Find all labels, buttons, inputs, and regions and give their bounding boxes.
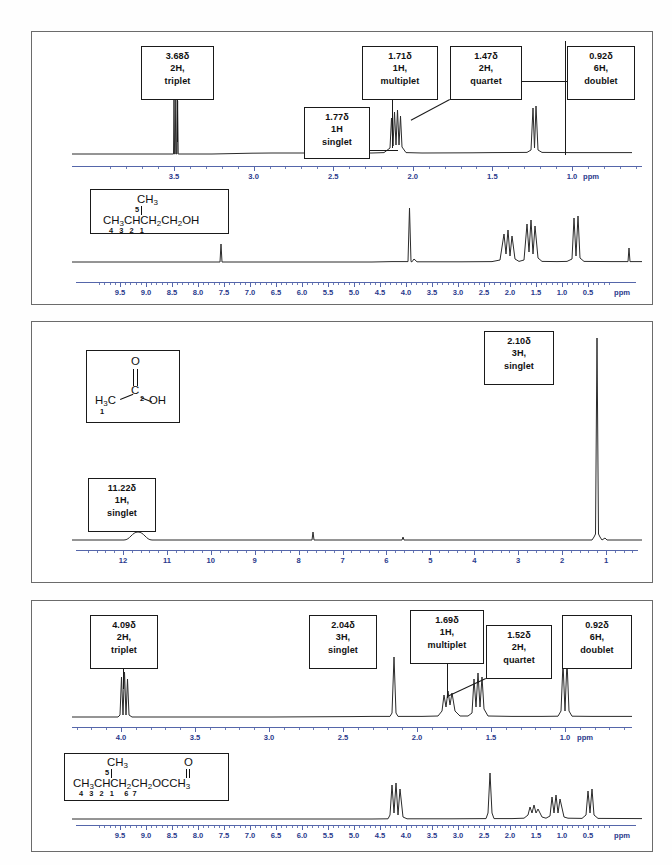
axis-minor-tick <box>597 550 598 553</box>
axis-minor-tick <box>541 282 542 285</box>
axis-tick-label: 3.5 <box>427 831 438 840</box>
axis-minor-tick <box>442 282 443 285</box>
axis-minor-tick <box>437 282 438 285</box>
axis-minor-tick <box>598 825 599 828</box>
axis-ppm-label: ppm <box>583 172 599 181</box>
leader-0.92-vertical <box>565 41 566 155</box>
axis-minor-tick <box>624 727 625 730</box>
axis-minor-tick <box>228 550 229 553</box>
axis-tick <box>224 282 225 287</box>
axis-minor-tick <box>474 825 475 828</box>
expanded-axis-panel1: 3.53.02.52.01.51.0 ppm <box>72 166 642 184</box>
axis-minor-tick <box>397 166 398 169</box>
callout-multiplicity: quartet <box>487 654 551 666</box>
axis-minor-tick <box>360 550 361 553</box>
axis-minor-tick <box>593 282 594 285</box>
axis-minor-tick <box>141 550 142 553</box>
axis-minor-tick <box>158 166 159 169</box>
axis-tick-label: 1 <box>604 556 608 565</box>
axis-minor-tick <box>552 825 553 828</box>
axis-tick-label: 0.5 <box>583 831 594 840</box>
axis-tick-label: 7.5 <box>219 831 230 840</box>
axis-minor-tick <box>180 727 181 730</box>
axis-tick-label: 6.0 <box>297 831 308 840</box>
axis-minor-tick <box>203 825 204 828</box>
axis-tick-label: 6.5 <box>271 288 282 297</box>
callout-multiplicity: multiplet <box>411 639 483 651</box>
axis-tick-label: 0.5 <box>583 288 594 297</box>
axis-minor-tick <box>432 727 433 730</box>
full-axis-panel1: 9.59.08.58.07.57.06.56.05.55.04.54.03.53… <box>76 282 636 300</box>
axis-minor-tick <box>457 550 458 553</box>
axis-minor-tick <box>359 282 360 285</box>
axis-minor-tick <box>286 825 287 828</box>
axis-minor-tick <box>193 825 194 828</box>
axis-minor-tick <box>271 825 272 828</box>
axis-tick-label: 2 <box>560 556 564 565</box>
axis-minor-tick <box>225 727 226 730</box>
axis-minor-tick <box>402 727 403 730</box>
axis-minor-tick <box>536 550 537 553</box>
axis-minor-tick <box>479 282 480 285</box>
callout-protons: 1H, <box>411 626 483 638</box>
callout-11.22: 11.22δ 1H, singlet <box>88 478 156 532</box>
axis-minor-tick <box>506 727 507 730</box>
axis-minor-tick <box>553 550 554 553</box>
axis-minor-tick <box>489 282 490 285</box>
axis-minor-tick <box>344 825 345 828</box>
axis-tick <box>406 282 407 287</box>
axis-minor-tick <box>615 550 616 553</box>
axis-minor-tick <box>520 825 521 828</box>
axis-minor-tick <box>219 825 220 828</box>
axis-tick-label: 1.0 <box>567 172 578 181</box>
axis-minor-tick <box>312 282 313 285</box>
axis-tick-label: 2.5 <box>479 288 490 297</box>
axis-minor-tick <box>177 825 178 828</box>
axis-tick-label: 4.0 <box>401 831 412 840</box>
axis-ppm-label: ppm <box>577 733 593 742</box>
axis-minor-tick <box>208 282 209 285</box>
axis-tick-label: 3 <box>516 556 520 565</box>
axis-tick-label: 10 <box>207 556 215 565</box>
axis-minor-tick <box>463 282 464 285</box>
axis-minor-tick <box>489 825 490 828</box>
callout-shift: 1.71δ <box>363 50 437 62</box>
axis-minor-tick <box>270 166 271 169</box>
axis-tick-label: 9 <box>253 556 257 565</box>
callout-protons: 3H, <box>485 347 553 359</box>
axis-minor-tick <box>521 727 522 730</box>
nmr-panel-isoamyl-acetate: 4.09δ 2H, triplet 2.04δ 3H, singlet 1.69… <box>31 600 653 852</box>
callout-protons: 2H, <box>142 62 213 74</box>
axis-minor-tick <box>299 727 300 730</box>
axis-minor-tick <box>572 282 573 285</box>
axis-minor-tick <box>105 550 106 553</box>
axis-minor-tick <box>387 727 388 730</box>
axis-tick <box>120 825 121 830</box>
axis-minor-tick <box>557 825 558 828</box>
callout-2.04: 2.04δ 3H, singlet <box>309 615 377 669</box>
expanded-axis-panel3: 4.03.53.02.52.01.51.0 ppm <box>72 727 632 745</box>
axis-minor-tick <box>188 825 189 828</box>
axis-minor-tick <box>422 550 423 553</box>
axis-tick-label: 3.0 <box>248 172 259 181</box>
axis-minor-tick <box>552 282 553 285</box>
axis-tick <box>255 550 256 555</box>
axis-minor-tick <box>142 166 143 169</box>
full-axis-panel2: 121110987654321 <box>76 550 638 568</box>
axis-minor-tick <box>162 282 163 285</box>
axis-minor-tick <box>229 282 230 285</box>
axis-tick <box>458 825 459 830</box>
axis-minor-tick <box>281 282 282 285</box>
axis-minor-tick <box>193 550 194 553</box>
axis-tick <box>211 550 212 555</box>
axis-minor-tick <box>427 825 428 828</box>
axis-tick <box>606 550 607 555</box>
structure-bond-methyl <box>120 394 133 400</box>
axis-minor-tick <box>151 727 152 730</box>
axis-tick <box>562 282 563 287</box>
callout-4.09: 4.09δ 2H, triplet <box>90 615 158 669</box>
axis-tick-label: 1.5 <box>486 733 497 742</box>
axis-tick-label: 2.0 <box>505 831 516 840</box>
axis-minor-tick <box>557 282 558 285</box>
structure-branch-locant: 5 <box>105 768 109 777</box>
